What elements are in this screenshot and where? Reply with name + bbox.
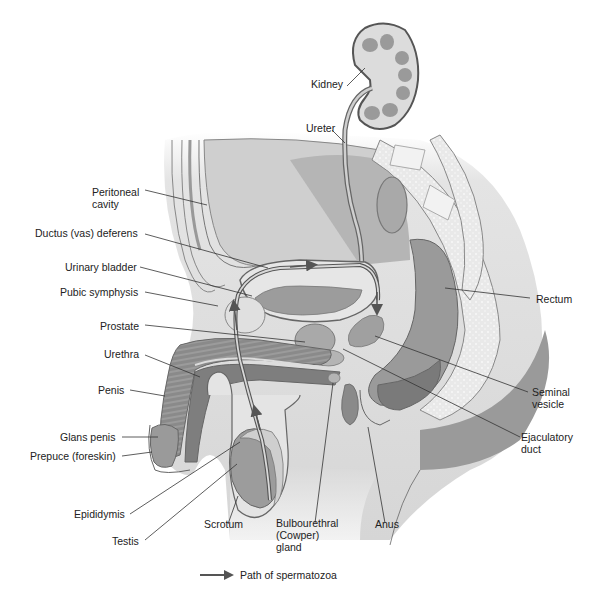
label-pubic-symphysis: Pubic symphysis: [60, 286, 138, 298]
label-urethra: Urethra: [104, 348, 139, 360]
label-glans-penis: Glans penis: [60, 431, 115, 443]
label-prepuce: Prepuce (foreskin): [30, 450, 116, 462]
label-peritoneal-cavity: Peritoneal cavity: [92, 186, 139, 210]
pubic-symphysis: [225, 297, 265, 333]
label-bulbourethral-gland: Bulbourethral (Cowper) gland: [276, 517, 338, 553]
label-scrotum: Scrotum: [204, 518, 243, 530]
label-testis: Testis: [112, 535, 139, 547]
label-kidney: Kidney: [311, 78, 343, 90]
label-ejaculatory-duct: Ejaculatory duct: [521, 431, 573, 455]
label-seminal-vesicle: Seminal vesicle: [532, 386, 570, 410]
legend-label: Path of spermatozoa: [240, 569, 337, 581]
label-prostate: Prostate: [100, 320, 139, 332]
label-penis: Penis: [98, 384, 124, 396]
glans-penis: [150, 424, 178, 467]
label-ductus-deferens: Ductus (vas) deferens: [35, 227, 138, 239]
label-ureter: Ureter: [306, 122, 335, 134]
label-urinary-bladder: Urinary bladder: [65, 261, 137, 273]
kidney: [353, 23, 418, 129]
label-epididymis: Epididymis: [74, 508, 125, 520]
label-rectum: Rectum: [536, 293, 572, 305]
bulbourethral-gland: [328, 373, 340, 383]
label-anus: Anus: [375, 518, 399, 530]
arrow-right-icon: [200, 570, 234, 580]
legend: Path of spermatozoa: [200, 569, 337, 581]
